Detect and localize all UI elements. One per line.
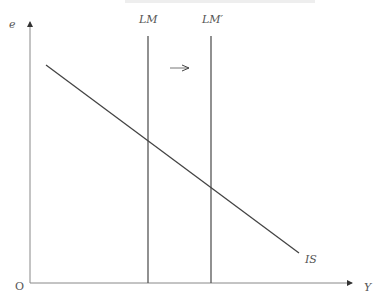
y-axis-label: e xyxy=(9,18,16,31)
lm-prime-label: LM′ xyxy=(201,13,224,26)
diagram-canvas: e Y O LM LM′ IS xyxy=(0,0,387,300)
is-label: IS xyxy=(304,253,317,266)
origin-label: O xyxy=(15,280,24,293)
islm-diagram: e Y O LM LM′ IS xyxy=(0,0,387,300)
is-curve xyxy=(46,65,299,253)
cropped-caption-strip xyxy=(125,0,315,3)
x-axis-label: Y xyxy=(364,281,373,294)
lm-label: LM xyxy=(138,13,158,26)
